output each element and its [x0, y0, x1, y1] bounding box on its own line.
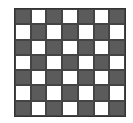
board-square[interactable] — [109, 9, 125, 24]
board-square[interactable] — [15, 9, 31, 24]
board-square[interactable] — [15, 101, 31, 116]
board-square[interactable] — [94, 85, 110, 100]
board-square[interactable] — [78, 70, 94, 85]
board-square[interactable] — [94, 101, 110, 116]
board-square[interactable] — [31, 9, 47, 24]
board-square[interactable] — [46, 24, 62, 39]
board-square[interactable] — [109, 70, 125, 85]
board-square[interactable] — [94, 9, 110, 24]
board-square[interactable] — [78, 55, 94, 70]
board-square[interactable] — [78, 85, 94, 100]
board-square[interactable] — [62, 70, 78, 85]
board-square[interactable] — [78, 9, 94, 24]
board-square[interactable] — [94, 55, 110, 70]
board-square[interactable] — [31, 85, 47, 100]
board-square[interactable] — [94, 24, 110, 39]
board-square[interactable] — [46, 40, 62, 55]
board-square[interactable] — [15, 85, 31, 100]
board-square[interactable] — [78, 40, 94, 55]
board-square[interactable] — [46, 9, 62, 24]
board-square[interactable] — [109, 40, 125, 55]
board-square[interactable] — [78, 24, 94, 39]
board-square[interactable] — [15, 24, 31, 39]
board-square[interactable] — [15, 40, 31, 55]
board-square[interactable] — [109, 101, 125, 116]
board-square[interactable] — [94, 70, 110, 85]
board-square[interactable] — [109, 55, 125, 70]
board-square[interactable] — [62, 24, 78, 39]
board-square[interactable] — [31, 24, 47, 39]
board-square[interactable] — [78, 101, 94, 116]
board-square[interactable] — [109, 24, 125, 39]
board-square[interactable] — [31, 40, 47, 55]
board-square[interactable] — [46, 55, 62, 70]
board-square[interactable] — [31, 101, 47, 116]
board-square[interactable] — [94, 40, 110, 55]
board-square[interactable] — [15, 70, 31, 85]
board-square[interactable] — [62, 85, 78, 100]
board-square[interactable] — [62, 9, 78, 24]
checkerboard — [14, 8, 126, 117]
board-square[interactable] — [31, 70, 47, 85]
board-square[interactable] — [62, 101, 78, 116]
board-square[interactable] — [109, 85, 125, 100]
board-square[interactable] — [62, 55, 78, 70]
board-square[interactable] — [46, 70, 62, 85]
board-square[interactable] — [46, 85, 62, 100]
board-square[interactable] — [15, 55, 31, 70]
board-square[interactable] — [46, 101, 62, 116]
board-square[interactable] — [62, 40, 78, 55]
board-square[interactable] — [31, 55, 47, 70]
